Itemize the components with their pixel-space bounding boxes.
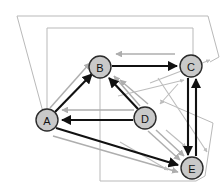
- node-b-label: B: [96, 62, 103, 74]
- edge-gray-d-e-1: [148, 131, 180, 160]
- inner-rect-outline: [47, 28, 193, 112]
- diagram-canvas: A B C D E: [0, 0, 224, 190]
- edge-gray-d-b-1: [114, 76, 140, 106]
- edge-gray-a-b: [50, 63, 90, 108]
- node-d[interactable]: D: [134, 107, 156, 129]
- edge-gray-lower-right: [166, 130, 186, 147]
- edge-gray-lower-left: [120, 142, 168, 170]
- lower-quad-top: [160, 100, 213, 123]
- node-a-label: A: [43, 115, 51, 127]
- outer-trapezoid-left-leg: [17, 16, 43, 112]
- node-d-label: D: [141, 113, 149, 125]
- edge-gray-c-e-diag: [158, 78, 207, 152]
- node-c-label: C: [187, 61, 195, 73]
- node-c[interactable]: C: [180, 55, 202, 77]
- node-e[interactable]: E: [181, 157, 203, 179]
- strong-edge-layer: [55, 66, 196, 165]
- edge-a-b: [55, 74, 92, 112]
- node-e-label: E: [188, 163, 195, 175]
- node-b[interactable]: B: [89, 56, 111, 78]
- edge-gray-c-d-diag: [160, 84, 178, 104]
- node-a[interactable]: A: [36, 109, 58, 131]
- graph-svg: A B C D E: [0, 0, 224, 190]
- node-layer: A B C D E: [36, 55, 203, 179]
